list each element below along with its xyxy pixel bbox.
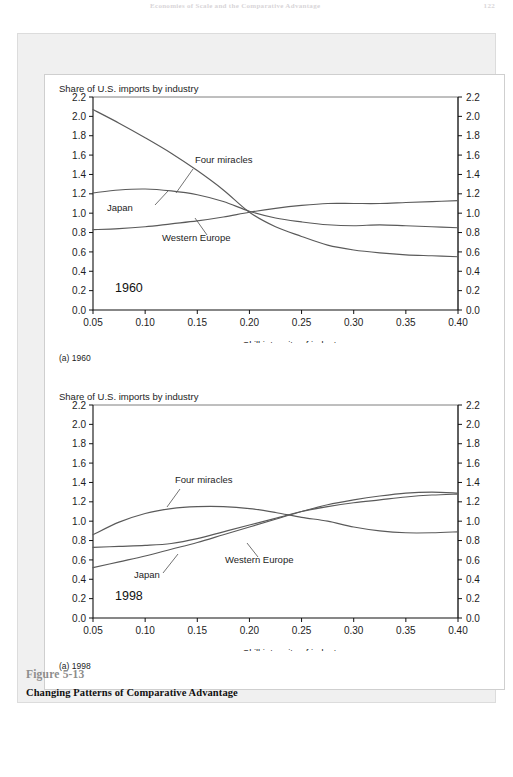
y-tick-label-right: 1.8 <box>466 438 480 449</box>
x-tick-label: 0.30 <box>344 625 364 636</box>
y-tick-label: 0.4 <box>72 266 86 277</box>
y-tick-label: 2.2 <box>72 92 86 103</box>
running-head-page-number: 122 <box>484 2 495 10</box>
chart-1998-plot: 0.00.00.20.20.40.40.60.60.80.81.01.01.21… <box>45 383 506 651</box>
figure-number: Figure 5-13 <box>26 668 487 680</box>
x-tick-label: 0.35 <box>396 317 416 328</box>
chart-1998: Share of U.S. imports by industry 0.00.0… <box>45 383 506 683</box>
x-tick-label: 0.40 <box>448 317 468 328</box>
charts-panel: Share of U.S. imports by industry 0.00.0… <box>44 74 505 690</box>
series-annotation-label: Japan <box>107 202 133 213</box>
x-tick-label: 0.25 <box>292 317 312 328</box>
y-tick-label: 1.0 <box>72 208 86 219</box>
y-tick-label: 1.4 <box>72 169 86 180</box>
y-tick-label-right: 1.0 <box>466 516 480 527</box>
figure-title: Changing Patterns of Comparative Advanta… <box>26 687 487 698</box>
chart-1960-subcaption: (a) 1960 <box>59 353 91 363</box>
x-tick-label: 0.05 <box>83 625 103 636</box>
y-tick-label-right: 1.4 <box>466 169 480 180</box>
running-head-title: Economies of Scale and the Comparative A… <box>150 2 320 10</box>
y-tick-label-right: 0.6 <box>466 555 480 566</box>
y-tick-label-right: 1.2 <box>466 188 480 199</box>
x-tick-label: 0.30 <box>344 317 364 328</box>
y-tick-label: 1.6 <box>72 150 86 161</box>
y-tick-label: 0.6 <box>72 247 86 258</box>
series-line <box>93 494 458 547</box>
series-line <box>93 110 458 257</box>
y-tick-label: 1.2 <box>72 496 86 507</box>
series-annotation-label: Japan <box>134 569 160 580</box>
y-tick-label-right: 2.2 <box>466 400 480 411</box>
y-tick-label: 0.2 <box>72 593 86 604</box>
y-tick-label: 0.8 <box>72 227 86 238</box>
y-tick-label: 2.0 <box>72 419 86 430</box>
y-tick-label: 0.0 <box>72 613 86 624</box>
x-tick-label: 0.25 <box>292 625 312 636</box>
annotation-leader-line <box>155 191 168 205</box>
x-axis-title: Skill intensity of industry <box>243 647 345 651</box>
y-tick-label-right: 1.2 <box>466 496 480 507</box>
x-tick-label: 0.20 <box>240 625 260 636</box>
y-tick-label-right: 0.8 <box>466 227 480 238</box>
y-tick-label: 1.0 <box>72 516 86 527</box>
y-tick-label: 0.6 <box>72 555 86 566</box>
running-head: Economies of Scale and the Comparative A… <box>150 2 495 10</box>
y-tick-label: 0.0 <box>72 305 86 316</box>
y-tick-label: 0.4 <box>72 574 86 585</box>
y-tick-label: 2.2 <box>72 400 86 411</box>
annotation-leader-line <box>167 489 180 507</box>
y-tick-label: 1.2 <box>72 188 86 199</box>
x-tick-label: 0.20 <box>240 317 260 328</box>
annotation-leader-line <box>176 169 193 193</box>
y-tick-label-right: 0.2 <box>466 285 480 296</box>
y-tick-label-right: 0.4 <box>466 574 480 585</box>
x-tick-label: 0.40 <box>448 625 468 636</box>
chart-1960-plot: 0.00.00.20.20.40.40.60.60.80.81.01.01.21… <box>45 75 506 343</box>
x-tick-label: 0.10 <box>135 317 155 328</box>
series-annotation-label: Western Europe <box>225 554 293 565</box>
x-axis-title: Skill intensity of industry <box>243 339 345 343</box>
y-tick-label: 1.8 <box>72 438 86 449</box>
x-tick-label: 0.15 <box>188 625 208 636</box>
figure-caption: Figure 5-13 Changing Patterns of Compara… <box>26 668 487 698</box>
x-tick-label: 0.05 <box>83 317 103 328</box>
y-tick-label-right: 2.2 <box>466 92 480 103</box>
figure-page: Economies of Scale and the Comparative A… <box>0 0 513 777</box>
annotation-leader-line <box>163 554 178 573</box>
y-tick-label-right: 0.0 <box>466 613 480 624</box>
y-tick-label: 2.0 <box>72 111 86 122</box>
y-tick-label-right: 0.2 <box>466 593 480 604</box>
y-tick-label-right: 1.6 <box>466 150 480 161</box>
y-tick-label: 0.8 <box>72 535 86 546</box>
y-tick-label: 1.4 <box>72 477 86 488</box>
series-annotation-label: Four miracles <box>175 474 233 485</box>
series-line <box>93 506 458 534</box>
y-tick-label-right: 2.0 <box>466 111 480 122</box>
series-annotation-label: Four miracles <box>195 154 253 165</box>
year-badge: 1998 <box>115 589 143 603</box>
y-tick-label-right: 0.0 <box>466 305 480 316</box>
y-tick-label-right: 1.6 <box>466 458 480 469</box>
figure-frame: Share of U.S. imports by industry 0.00.0… <box>17 33 496 703</box>
series-annotation-label: Western Europe <box>162 232 230 243</box>
y-tick-label-right: 1.4 <box>466 477 480 488</box>
y-tick-label-right: 0.8 <box>466 535 480 546</box>
y-tick-label-right: 2.0 <box>466 419 480 430</box>
y-tick-label-right: 1.8 <box>466 130 480 141</box>
y-tick-label: 1.6 <box>72 458 86 469</box>
x-tick-label: 0.10 <box>135 625 155 636</box>
y-tick-label: 1.8 <box>72 130 86 141</box>
year-badge: 1960 <box>115 281 143 295</box>
x-tick-label: 0.35 <box>396 625 416 636</box>
y-tick-label: 0.2 <box>72 285 86 296</box>
chart-1960: Share of U.S. imports by industry 0.00.0… <box>45 75 506 375</box>
y-tick-label-right: 1.0 <box>466 208 480 219</box>
x-tick-label: 0.15 <box>188 317 208 328</box>
y-tick-label-right: 0.6 <box>466 247 480 258</box>
y-tick-label-right: 0.4 <box>466 266 480 277</box>
